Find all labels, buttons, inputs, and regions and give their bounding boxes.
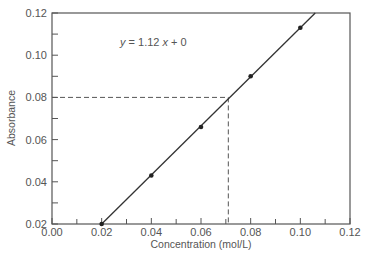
y-tick-label: 0.06 [26, 134, 47, 146]
y-tick-label: 0.12 [26, 7, 47, 19]
x-tick-label: 0.06 [190, 226, 211, 238]
equation-label: y = 1.12 x + 0 [119, 36, 187, 48]
x-axis-label: Concentration (mol/L) [151, 238, 252, 250]
x-tick-label: 0.04 [141, 226, 162, 238]
data-point [298, 25, 303, 30]
y-axis-label: Absorbance [5, 90, 17, 146]
x-tick-label: 0.08 [240, 226, 261, 238]
y-tick-label: 0.08 [26, 91, 47, 103]
chart-container: 0.000.020.040.060.080.100.120.020.040.06… [0, 0, 372, 260]
x-tick-label: 0.12 [339, 226, 360, 238]
data-point [248, 74, 253, 79]
plot-frame [52, 13, 350, 224]
data-point [99, 222, 104, 227]
data-point [149, 173, 154, 178]
y-tick-label: 0.02 [26, 218, 47, 230]
x-tick-label: 0.10 [290, 226, 311, 238]
axis-ticks: 0.000.020.040.060.080.100.120.020.040.06… [26, 7, 361, 238]
data-point [199, 125, 204, 130]
y-tick-label: 0.10 [26, 49, 47, 61]
calibration-chart: 0.000.020.040.060.080.100.120.020.040.06… [0, 0, 372, 260]
x-tick-label: 0.02 [91, 226, 112, 238]
dashed-guides [52, 97, 228, 224]
y-tick-label: 0.04 [26, 176, 47, 188]
axes [52, 13, 350, 224]
